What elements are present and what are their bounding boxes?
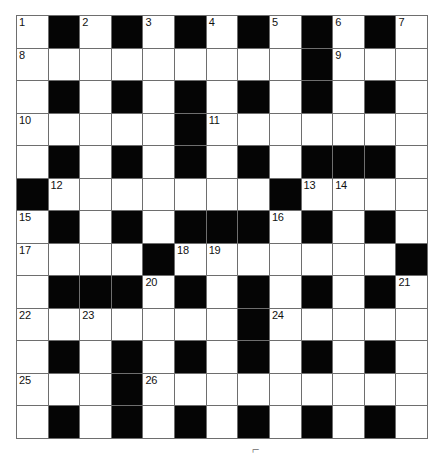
crossword-open-cell[interactable]	[396, 179, 427, 211]
crossword-open-cell[interactable]	[175, 49, 206, 81]
crossword-open-cell[interactable]	[17, 276, 48, 308]
crossword-open-cell[interactable]: 11	[207, 114, 238, 146]
crossword-open-cell[interactable]: 5	[270, 16, 301, 48]
crossword-open-cell[interactable]	[333, 211, 364, 243]
crossword-open-cell[interactable]	[175, 179, 206, 211]
crossword-open-cell[interactable]	[396, 211, 427, 243]
crossword-open-cell[interactable]	[365, 179, 396, 211]
crossword-open-cell[interactable]: 17	[17, 244, 48, 276]
crossword-open-cell[interactable]	[17, 406, 48, 438]
crossword-open-cell[interactable]	[238, 179, 269, 211]
crossword-open-cell[interactable]: 25	[17, 374, 48, 406]
crossword-open-cell[interactable]	[112, 179, 143, 211]
crossword-open-cell[interactable]	[207, 341, 238, 373]
crossword-open-cell[interactable]	[333, 309, 364, 341]
crossword-open-cell[interactable]	[365, 374, 396, 406]
crossword-open-cell[interactable]: 23	[80, 309, 111, 341]
crossword-open-cell[interactable]: 12	[49, 179, 80, 211]
crossword-open-cell[interactable]: 15	[17, 211, 48, 243]
crossword-open-cell[interactable]	[175, 309, 206, 341]
crossword-open-cell[interactable]	[365, 49, 396, 81]
crossword-open-cell[interactable]	[112, 244, 143, 276]
crossword-open-cell[interactable]	[80, 49, 111, 81]
crossword-open-cell[interactable]	[270, 276, 301, 308]
crossword-open-cell[interactable]	[17, 81, 48, 113]
crossword-open-cell[interactable]	[207, 406, 238, 438]
crossword-open-cell[interactable]	[333, 374, 364, 406]
crossword-open-cell[interactable]	[270, 244, 301, 276]
crossword-open-cell[interactable]	[207, 374, 238, 406]
crossword-open-cell[interactable]	[49, 309, 80, 341]
crossword-open-cell[interactable]	[333, 81, 364, 113]
crossword-open-cell[interactable]	[175, 374, 206, 406]
crossword-open-cell[interactable]	[143, 146, 174, 178]
crossword-open-cell[interactable]	[80, 406, 111, 438]
crossword-open-cell[interactable]: 16	[270, 211, 301, 243]
crossword-open-cell[interactable]	[333, 244, 364, 276]
crossword-open-cell[interactable]	[207, 179, 238, 211]
crossword-open-cell[interactable]	[238, 374, 269, 406]
crossword-open-cell[interactable]	[333, 276, 364, 308]
crossword-open-cell[interactable]	[238, 114, 269, 146]
crossword-open-cell[interactable]	[112, 309, 143, 341]
crossword-open-cell[interactable]: 22	[17, 309, 48, 341]
crossword-open-cell[interactable]	[112, 49, 143, 81]
crossword-open-cell[interactable]: 13	[302, 179, 333, 211]
crossword-grid[interactable]: 1234567891011121314151617181920212223242…	[16, 15, 428, 439]
crossword-open-cell[interactable]	[270, 374, 301, 406]
crossword-open-cell[interactable]	[207, 49, 238, 81]
crossword-open-cell[interactable]	[238, 244, 269, 276]
crossword-open-cell[interactable]	[17, 341, 48, 373]
crossword-open-cell[interactable]	[302, 114, 333, 146]
crossword-open-cell[interactable]	[396, 374, 427, 406]
crossword-open-cell[interactable]	[49, 244, 80, 276]
crossword-open-cell[interactable]	[238, 49, 269, 81]
crossword-open-cell[interactable]	[365, 309, 396, 341]
crossword-open-cell[interactable]	[207, 309, 238, 341]
crossword-open-cell[interactable]	[396, 309, 427, 341]
crossword-open-cell[interactable]	[270, 341, 301, 373]
crossword-open-cell[interactable]	[49, 114, 80, 146]
crossword-open-cell[interactable]	[143, 49, 174, 81]
crossword-open-cell[interactable]	[270, 49, 301, 81]
crossword-open-cell[interactable]	[143, 179, 174, 211]
crossword-open-cell[interactable]	[80, 244, 111, 276]
crossword-open-cell[interactable]: 1	[17, 16, 48, 48]
crossword-open-cell[interactable]	[17, 146, 48, 178]
crossword-open-cell[interactable]: 9	[333, 49, 364, 81]
crossword-open-cell[interactable]	[365, 244, 396, 276]
crossword-open-cell[interactable]	[207, 276, 238, 308]
crossword-open-cell[interactable]	[112, 114, 143, 146]
crossword-open-cell[interactable]: 14	[333, 179, 364, 211]
crossword-open-cell[interactable]	[396, 406, 427, 438]
crossword-open-cell[interactable]	[80, 341, 111, 373]
crossword-open-cell[interactable]: 21	[396, 276, 427, 308]
crossword-open-cell[interactable]: 8	[17, 49, 48, 81]
crossword-open-cell[interactable]: 24	[270, 309, 301, 341]
crossword-open-cell[interactable]	[396, 146, 427, 178]
crossword-open-cell[interactable]: 10	[17, 114, 48, 146]
crossword-open-cell[interactable]: 20	[143, 276, 174, 308]
crossword-open-cell[interactable]	[365, 114, 396, 146]
crossword-open-cell[interactable]: 4	[207, 16, 238, 48]
crossword-open-cell[interactable]	[143, 341, 174, 373]
crossword-open-cell[interactable]	[143, 211, 174, 243]
crossword-open-cell[interactable]: 26	[143, 374, 174, 406]
crossword-open-cell[interactable]	[80, 146, 111, 178]
crossword-open-cell[interactable]	[207, 81, 238, 113]
crossword-open-cell[interactable]	[333, 341, 364, 373]
crossword-open-cell[interactable]	[80, 211, 111, 243]
crossword-open-cell[interactable]	[396, 341, 427, 373]
crossword-open-cell[interactable]	[333, 114, 364, 146]
crossword-open-cell[interactable]	[143, 114, 174, 146]
crossword-open-cell[interactable]	[396, 81, 427, 113]
crossword-open-cell[interactable]	[207, 146, 238, 178]
crossword-open-cell[interactable]	[270, 146, 301, 178]
crossword-open-cell[interactable]: 2	[80, 16, 111, 48]
crossword-open-cell[interactable]: 3	[143, 16, 174, 48]
crossword-open-cell[interactable]: 18	[175, 244, 206, 276]
crossword-open-cell[interactable]	[143, 81, 174, 113]
crossword-open-cell[interactable]	[143, 309, 174, 341]
crossword-open-cell[interactable]: 6	[333, 16, 364, 48]
crossword-open-cell[interactable]	[302, 244, 333, 276]
